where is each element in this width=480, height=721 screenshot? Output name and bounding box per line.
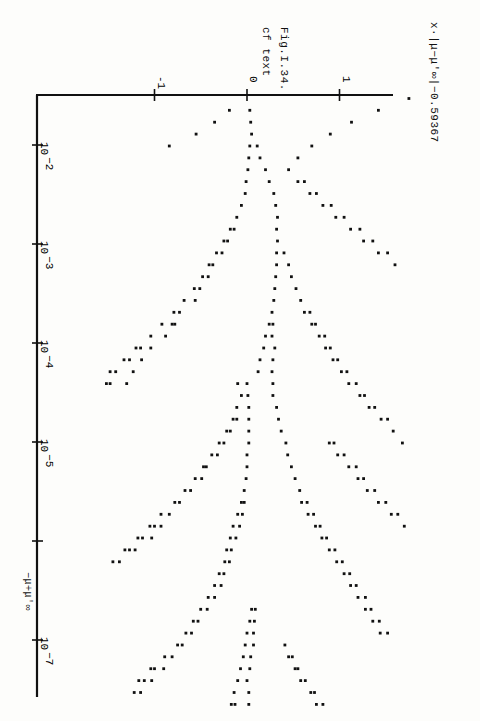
data-point [272, 358, 275, 361]
data-point [295, 287, 298, 290]
data-point [230, 703, 233, 706]
data-point [245, 477, 248, 480]
data-point [346, 370, 349, 373]
data-point [377, 252, 380, 255]
data-point [333, 442, 336, 445]
data-point [232, 418, 235, 421]
data-point [273, 287, 276, 290]
data-point [321, 537, 324, 540]
data-point [392, 430, 395, 433]
data-point [250, 133, 253, 136]
data-point [236, 382, 239, 385]
data-point [386, 252, 389, 255]
data-point [280, 430, 283, 433]
data-point [272, 299, 275, 302]
data-point [355, 584, 358, 587]
data-point [192, 620, 195, 623]
data-point [341, 560, 344, 563]
data-point [312, 513, 315, 516]
data-point [271, 370, 274, 373]
data-point [160, 513, 163, 516]
data-point [178, 311, 181, 314]
data-point [149, 525, 152, 528]
data-point [297, 157, 300, 160]
data-point [330, 204, 333, 207]
data-point [181, 644, 184, 647]
data-point [373, 489, 376, 492]
data-point [248, 109, 251, 112]
data-point [199, 608, 202, 611]
value-tick-label: -1 [155, 76, 167, 90]
data-point [290, 465, 293, 468]
data-point [366, 489, 369, 492]
data-point [390, 513, 393, 516]
data-point [109, 370, 112, 373]
data-point [357, 596, 360, 599]
data-point [218, 572, 221, 575]
data-point [359, 394, 362, 397]
value-ticks: -101 [155, 76, 352, 101]
data-point [377, 109, 380, 112]
data-point [249, 121, 252, 124]
data-point [334, 216, 337, 219]
data-point [236, 679, 239, 682]
data-point [268, 323, 271, 326]
data-point [253, 620, 256, 623]
data-point [164, 335, 167, 338]
data-point [202, 465, 205, 468]
data-point [134, 549, 137, 552]
data-point [228, 109, 231, 112]
data-point [254, 608, 257, 611]
data-point [313, 691, 316, 694]
data-point [329, 347, 332, 350]
data-point [294, 667, 297, 670]
data-point [257, 370, 260, 373]
data-point [275, 228, 278, 231]
data-point [276, 240, 279, 243]
data-point [268, 180, 271, 183]
data-point [283, 252, 286, 255]
data-point [408, 97, 411, 100]
data-point [324, 347, 327, 350]
data-point [239, 667, 242, 670]
data-point [348, 572, 351, 575]
data-point [233, 691, 236, 694]
data-point [343, 454, 346, 457]
data-point [299, 299, 302, 302]
data-point [213, 584, 216, 587]
data-point [350, 121, 353, 124]
data-point [271, 311, 274, 314]
data-point [357, 477, 360, 480]
data-point [150, 537, 153, 540]
data-point [247, 442, 250, 445]
data-point [355, 465, 358, 468]
data-point [259, 358, 262, 361]
data-point [394, 263, 397, 266]
data-point [161, 323, 164, 326]
data-point [343, 572, 346, 575]
data-point [225, 549, 228, 552]
data-point [273, 347, 276, 350]
data-point [370, 608, 373, 611]
data-point [149, 667, 152, 670]
data-point [336, 454, 339, 457]
data-point [244, 192, 247, 195]
data-point [240, 501, 243, 504]
data-point [364, 596, 367, 599]
data-point [139, 347, 142, 350]
data-point [246, 679, 249, 682]
data-point [118, 560, 121, 563]
data-point [173, 311, 176, 314]
data-point [235, 216, 238, 219]
data-point [235, 406, 238, 409]
data-point [318, 335, 321, 338]
data-point [190, 632, 193, 635]
data-point [347, 465, 350, 468]
data-point [329, 133, 332, 136]
data-point [201, 275, 204, 278]
data-point [195, 133, 198, 136]
data-point [287, 168, 290, 171]
data-point [150, 679, 153, 682]
data-point [247, 394, 250, 397]
data-point [297, 180, 300, 183]
